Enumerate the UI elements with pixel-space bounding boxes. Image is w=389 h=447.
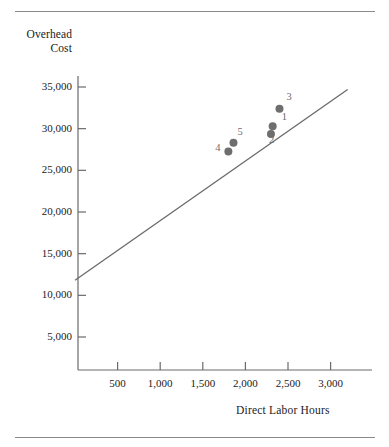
x-axis-tick-label: 3,000	[306, 377, 356, 389]
y-axis-tick-label: 10,000	[16, 288, 72, 300]
data-point-label-2: 2	[269, 134, 274, 145]
y-axis-tick-label: 15,000	[16, 247, 72, 259]
y-axis-tick-label: 35,000	[16, 80, 72, 92]
y-axis-tick-label: 20,000	[16, 205, 72, 217]
data-point-label-4: 4	[215, 142, 220, 153]
data-point-label-5: 5	[237, 126, 242, 137]
data-point-1[interactable]	[269, 122, 277, 130]
chart-figure: Overhead Cost Direct Labor Hours 5,00010…	[0, 0, 389, 447]
y-axis-tick-label: 25,000	[16, 163, 72, 175]
data-point-label-3: 3	[286, 91, 291, 102]
y-axis-tick-label: 5,000	[16, 330, 72, 342]
regression-line	[75, 90, 348, 281]
data-point-4[interactable]	[224, 148, 232, 156]
data-point-5[interactable]	[229, 139, 237, 147]
data-point-label-1: 1	[282, 111, 287, 122]
y-axis-tick-label: 30,000	[16, 122, 72, 134]
